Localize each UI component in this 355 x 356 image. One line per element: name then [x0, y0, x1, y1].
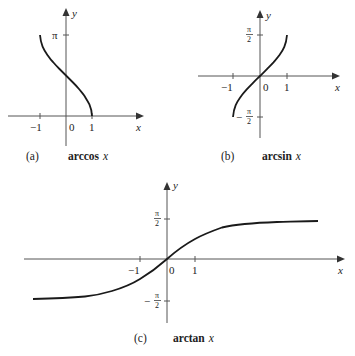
- y-tick-label-pi-over-2: π 2: [154, 209, 161, 228]
- x-tick-label-minus-1: −1: [30, 121, 42, 133]
- x-axis-label: x: [135, 121, 141, 133]
- x-tick-label-1: 1: [89, 121, 95, 133]
- y-axis-arrow-icon: [164, 182, 171, 190]
- svg-text:2: 2: [155, 301, 159, 310]
- svg-text:2: 2: [247, 117, 251, 126]
- x-axis-arrow-icon: [136, 113, 144, 120]
- caption-letter-c: (c): [134, 332, 147, 345]
- x-axis-label: x: [337, 264, 343, 276]
- inverse-trig-figure: y x π −1 0 1 (a) arccosx y x π 2 − π 2 −…: [0, 0, 355, 356]
- y-tick-label-pi-over-2: π 2: [246, 25, 253, 44]
- x-tick-label-minus-1: −1: [128, 264, 140, 276]
- func-var: x: [208, 332, 215, 344]
- svg-text:π: π: [247, 107, 251, 116]
- caption-func-arcsin: arcsinx: [262, 150, 302, 162]
- svg-text:−: −: [236, 111, 242, 123]
- func-name: arcsin: [262, 150, 292, 162]
- y-axis-arrow-icon: [63, 8, 70, 16]
- arctan-plot: y x π 2 − π 2 −1 0 1 (c) arctanx: [24, 179, 345, 345]
- y-axis-label: y: [172, 179, 178, 191]
- svg-text:−: −: [144, 295, 150, 307]
- x-tick-label-0: 0: [69, 121, 75, 133]
- svg-text:π: π: [155, 209, 159, 218]
- x-tick-label-minus-1: −1: [221, 81, 233, 93]
- func-name: arccos: [68, 150, 100, 162]
- x-axis-label: x: [334, 81, 340, 93]
- x-axis-arrow-icon: [337, 256, 345, 263]
- arccos-plot: y x π −1 0 1 (a) arccosx: [8, 7, 144, 163]
- y-axis-label: y: [265, 9, 271, 21]
- arcsin-plot: y x π 2 − π 2 −1 0 1 (b) arcsinx: [198, 9, 340, 163]
- x-tick-label-0: 0: [263, 81, 269, 93]
- x-tick-label-1: 1: [284, 81, 290, 93]
- svg-text:2: 2: [247, 35, 251, 44]
- func-var: x: [295, 150, 302, 162]
- func-var: x: [102, 150, 109, 162]
- svg-text:π: π: [155, 291, 159, 300]
- arctan-curve: [33, 221, 318, 299]
- caption-letter-b: (b): [221, 150, 235, 163]
- y-tick-label-minus-pi-over-2: − π 2: [144, 291, 161, 310]
- y-tick-label-minus-pi-over-2: − π 2: [236, 107, 253, 126]
- y-axis-label: y: [71, 7, 77, 19]
- x-axis-arrow-icon: [332, 73, 340, 80]
- x-tick-label-0: 0: [169, 264, 175, 276]
- svg-text:π: π: [247, 25, 251, 34]
- y-axis-arrow-icon: [257, 10, 264, 18]
- caption-letter-a: (a): [26, 150, 39, 163]
- y-tick-label-pi: π: [52, 29, 58, 41]
- x-tick-label-1: 1: [192, 264, 198, 276]
- func-name: arctan: [173, 332, 205, 344]
- caption-func-arccos: arccosx: [68, 150, 109, 162]
- svg-text:2: 2: [155, 219, 159, 228]
- caption-func-arctan: arctanx: [173, 332, 215, 344]
